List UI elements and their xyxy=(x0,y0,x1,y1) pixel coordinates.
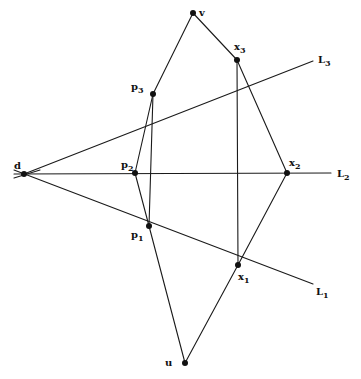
segment-x1-u xyxy=(185,265,238,363)
label-L3: L3 xyxy=(318,54,331,68)
point-p1 xyxy=(146,223,152,229)
label-x1: x1 xyxy=(238,271,250,285)
label-u: u xyxy=(165,357,172,368)
segment-p1-u xyxy=(149,226,185,363)
label-p3: p3 xyxy=(131,81,144,95)
segment-p3-p1 xyxy=(149,94,153,226)
point-x1 xyxy=(235,262,241,268)
label-p2: p2 xyxy=(121,159,134,173)
segment-p3-p2 xyxy=(135,94,153,173)
segment-x2-x1 xyxy=(238,173,287,265)
label-x2: x2 xyxy=(289,157,301,171)
point-u xyxy=(182,360,188,366)
segment-x3-x2 xyxy=(237,60,287,173)
point-p3 xyxy=(150,91,156,97)
label-L1: L1 xyxy=(316,286,329,300)
label-L2: L2 xyxy=(337,168,350,182)
line-L1 xyxy=(14,170,313,284)
point-x2 xyxy=(284,170,290,176)
label-v: v xyxy=(198,7,206,18)
point-d xyxy=(21,171,27,177)
ray-lines xyxy=(14,61,331,284)
segment-v-x3 xyxy=(193,13,237,60)
geometric-diagram: dvup3p2p1x3x2x1L3L2L1 xyxy=(0,0,361,379)
point-x3 xyxy=(234,57,240,63)
label-p1: p1 xyxy=(131,229,144,243)
polygon-segments xyxy=(135,13,287,363)
label-x3: x3 xyxy=(234,41,246,55)
line-L3 xyxy=(24,61,313,174)
line-L2 xyxy=(14,173,331,174)
segment-p2-p1 xyxy=(135,173,149,226)
label-d: d xyxy=(14,160,21,171)
labels: dvup3p2p1x3x2x1L3L2L1 xyxy=(14,7,350,368)
point-v xyxy=(190,10,196,16)
segment-v-p3 xyxy=(153,13,193,94)
